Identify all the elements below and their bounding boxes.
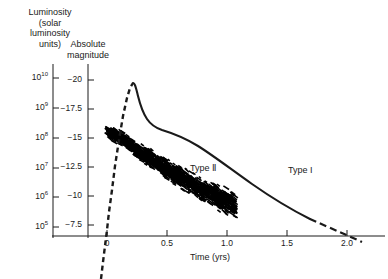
supernova-light-curve-figure: Luminosity (solar luminosity units) Abso… <box>0 0 388 279</box>
luminosity-axis-ticks <box>53 78 59 227</box>
type-i-rise-segment <box>101 83 133 279</box>
type-ii-scatter-band <box>105 126 238 217</box>
time-axis-ticks <box>107 230 347 236</box>
magnitude-axis-ticks <box>88 80 94 225</box>
plot-canvas <box>0 0 388 279</box>
type-i-tail-segment <box>310 219 362 242</box>
